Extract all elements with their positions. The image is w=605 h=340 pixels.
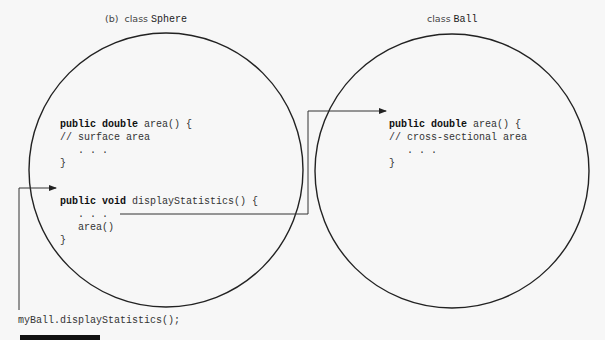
figure-label-bar bbox=[20, 335, 100, 340]
comment: // cross-sectional area bbox=[389, 131, 527, 144]
method-signature: public void displayStatistics() { bbox=[60, 195, 258, 208]
method-name: area() { bbox=[467, 119, 521, 130]
sphere-class-circle bbox=[29, 33, 303, 307]
ellipsis: . . . bbox=[60, 208, 258, 221]
ball-caption: class Ball bbox=[427, 13, 478, 25]
class-name-sphere: Sphere bbox=[151, 14, 187, 25]
keywords: public double bbox=[60, 119, 138, 130]
method-signature: public double area() { bbox=[60, 118, 192, 131]
ball-class-circle bbox=[315, 34, 589, 308]
ellipsis: . . . bbox=[389, 144, 527, 157]
caption-prefix: class bbox=[427, 13, 454, 24]
class-name-ball: Ball bbox=[454, 14, 478, 25]
method-name: area() { bbox=[138, 119, 192, 130]
keywords: public void bbox=[60, 196, 126, 207]
sphere-displaystatistics-method: public void displayStatistics() { . . . … bbox=[60, 182, 258, 247]
call-arrow bbox=[19, 188, 56, 310]
keywords: public double bbox=[389, 119, 467, 130]
ball-area-method: public double area() {// cross-sectional… bbox=[389, 105, 527, 170]
ellipsis: . . . bbox=[60, 144, 192, 157]
method-name: displayStatistics() { bbox=[126, 196, 258, 207]
caption-prefix: (b) class bbox=[105, 13, 151, 24]
area-call: area() bbox=[60, 221, 258, 234]
comment: // surface area bbox=[60, 131, 192, 144]
close-brace: } bbox=[60, 234, 258, 247]
sphere-area-method: public double area() {// surface area . … bbox=[60, 105, 192, 170]
diagram-lines bbox=[0, 0, 605, 340]
close-brace: } bbox=[389, 157, 527, 170]
call-statement: myBall.displayStatistics(); bbox=[18, 314, 180, 327]
method-signature: public double area() { bbox=[389, 118, 527, 131]
close-brace: } bbox=[60, 157, 192, 170]
sphere-caption: (b) class Sphere bbox=[105, 13, 187, 25]
